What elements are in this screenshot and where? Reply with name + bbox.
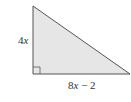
- vertical-leg-label: 4x: [18, 34, 29, 46]
- horizontal-leg-label: 8x − 2: [68, 79, 96, 91]
- triangle-shape: [33, 6, 130, 74]
- right-triangle-diagram: 4x 8x − 2: [0, 0, 131, 102]
